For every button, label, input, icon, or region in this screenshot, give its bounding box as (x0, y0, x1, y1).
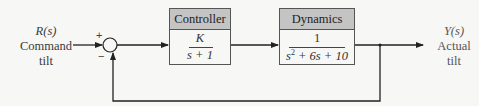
input-label: R(s) Command tilt (18, 24, 74, 69)
dynamics-numerator: 1 (280, 31, 354, 46)
plus-sign: + (96, 29, 102, 41)
dynamics-block: Dynamics 1 s2 + 6s + 10 (279, 8, 355, 65)
dynamics-transfer-function: 1 s2 + 6s + 10 (280, 31, 354, 65)
input-label-line1: Command (18, 39, 74, 54)
output-label: Y(s) Actual tilt (432, 24, 476, 69)
output-label-line1: Actual (432, 39, 476, 54)
dynamics-denominator: s2 + 6s + 10 (280, 48, 354, 64)
input-label-line2: tilt (18, 54, 74, 69)
controller-numerator: K (170, 31, 230, 46)
minus-sign: − (98, 50, 104, 62)
controller-transfer-function: K s + 1 (170, 31, 230, 65)
controller-denominator: s + 1 (170, 48, 230, 63)
output-symbol: Y(s) (432, 24, 476, 39)
dynamics-title: Dynamics (280, 9, 354, 30)
controller-title: Controller (170, 9, 230, 30)
summing-junction (103, 38, 117, 52)
output-label-line2: tilt (432, 54, 476, 69)
controller-block: Controller K s + 1 (169, 8, 231, 65)
input-symbol: R(s) (18, 24, 74, 39)
